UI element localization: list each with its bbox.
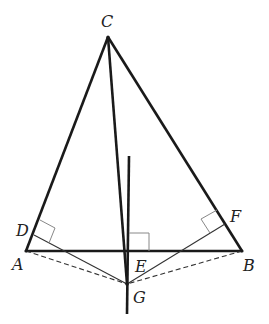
point-g	[125, 282, 129, 286]
perpendicular-line	[127, 156, 129, 314]
label-b: B	[242, 256, 255, 275]
label-c: C	[101, 12, 113, 31]
segment-cg	[108, 37, 127, 284]
point-b	[240, 249, 243, 252]
label-a: A	[10, 255, 24, 274]
segment-dg	[34, 235, 127, 284]
label-d: D	[15, 221, 29, 240]
segment-ag	[26, 251, 127, 284]
label-e: E	[134, 257, 147, 276]
point-c	[106, 35, 109, 38]
right-angle-marker-f	[201, 210, 217, 233]
segment-ac	[26, 37, 108, 251]
label-f: F	[229, 207, 242, 226]
geometry-diagram: C D A E G F B	[0, 0, 269, 324]
point-a	[24, 249, 27, 252]
right-angle-marker-e	[129, 233, 149, 251]
label-g: G	[133, 288, 146, 307]
